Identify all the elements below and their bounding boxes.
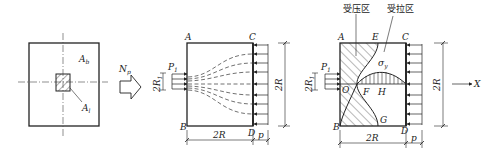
label-height-2R: 2R <box>274 78 284 92</box>
diagram-canvas: Ab Al Np P1 2R1 <box>0 0 493 164</box>
figure-3-stress-zones: 受压区 受拉区 P1 2R1 <box>304 3 481 148</box>
P1-load-arrows <box>325 74 340 89</box>
label-P1: P1 <box>320 62 331 73</box>
label-bottom-2R: 2R <box>365 133 379 143</box>
label-Al: Al <box>81 103 91 114</box>
corner-B: B <box>179 122 187 132</box>
local-area-hatched <box>56 74 70 91</box>
label-Ab: Ab <box>78 54 90 65</box>
label-p: p <box>411 133 417 143</box>
label-X: X <box>473 79 481 89</box>
point-E: E <box>371 32 379 42</box>
label-Np: Np <box>118 64 131 76</box>
point-G: G <box>380 115 387 125</box>
label-2R1: 2R1 <box>152 76 163 93</box>
label-P1: P1 <box>167 62 178 73</box>
distributed-pressure-p <box>407 44 422 125</box>
corner-D: D <box>400 126 408 136</box>
label-bottom-2R: 2R <box>212 130 226 140</box>
corner-C: C <box>402 32 409 42</box>
leader-line-Al <box>70 88 82 102</box>
point-O: O <box>342 85 350 95</box>
label-tension-zone: 受拉区 <box>387 3 414 14</box>
corner-C: C <box>249 32 256 42</box>
figure-2-stress-trajectories: P1 2R1 <box>152 32 290 145</box>
point-F: F <box>362 87 370 97</box>
label-2R1: 2R1 <box>304 76 315 93</box>
point-H: H <box>377 87 386 97</box>
corner-B: B <box>332 122 340 132</box>
corner-A: A <box>337 32 345 42</box>
P1-load-arrows <box>172 74 187 89</box>
label-sigma-y: σy <box>378 58 388 70</box>
hollow-arrow-icon <box>120 75 141 99</box>
distributed-pressure-p <box>254 44 268 125</box>
label-height-2R: 2R <box>432 78 442 92</box>
leader-tension <box>384 16 393 52</box>
load-arrow-Np: Np <box>118 64 141 99</box>
stress-trajectory-lines <box>188 54 253 114</box>
label-p: p <box>258 130 264 140</box>
label-compression-zone: 受压区 <box>343 3 370 14</box>
corner-A: A <box>184 32 192 42</box>
figure-1-cross-section: Ab Al <box>18 33 108 136</box>
corner-D: D <box>247 128 255 138</box>
